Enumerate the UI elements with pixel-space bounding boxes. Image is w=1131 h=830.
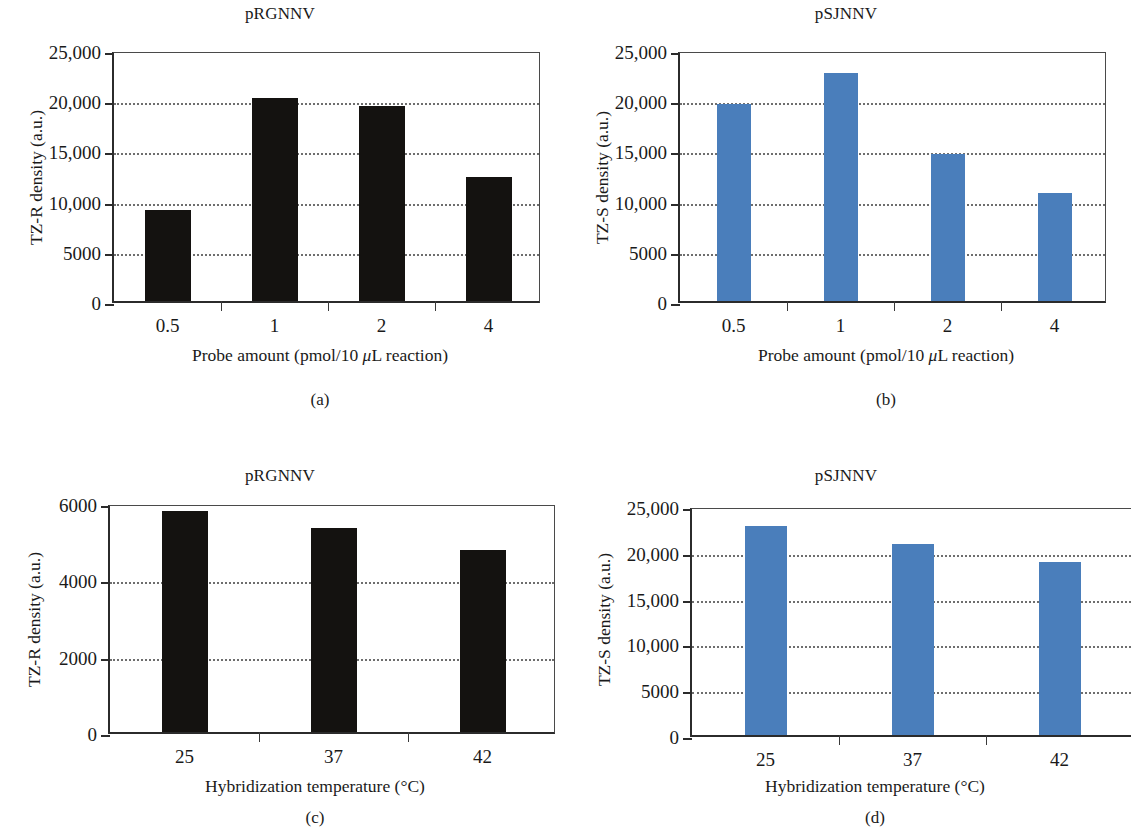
y-tick-a-4 (105, 103, 114, 105)
y-tick-label-c-1: 2000 (59, 648, 97, 670)
y-axis-label-b: TZ-S density (a.u.) (592, 48, 613, 308)
y-tick-label-a-1: 5000 (63, 243, 101, 265)
bar-a-2 (359, 106, 405, 301)
x-tick-label-a-0: 0.5 (156, 315, 180, 337)
y-tick-label-d-4: 20,000 (627, 544, 679, 566)
chart-panel-b: pSJNNV (566, 4, 1126, 14)
y-tick-a-0 (105, 304, 114, 306)
y-tick-label-b-5: 25,000 (615, 42, 667, 64)
y-tick-label-c-3: 6000 (59, 495, 97, 517)
y-tick-label-d-3: 15,000 (627, 590, 679, 612)
y-tick-label-b-1: 5000 (629, 243, 667, 265)
panel-title-b: pSJNNV (566, 4, 1126, 24)
y-tick-b-1 (671, 254, 680, 256)
bar-d-0 (745, 526, 787, 735)
y-tick-b-2 (671, 204, 680, 206)
panel-title-c: pRGNNV (0, 466, 560, 486)
y-tick-label-b-3: 15,000 (615, 142, 667, 164)
plot-area-c: 0200040006000253742 (108, 505, 555, 734)
y-tick-label-d-1: 5000 (641, 681, 679, 703)
x-tick-label-a-2: 2 (377, 315, 387, 337)
chart-panel-c: pRGNNV (0, 466, 560, 476)
x-tick-label-b-0: 0.5 (722, 315, 746, 337)
x-tick-label-d-0: 25 (756, 749, 775, 771)
y-tick-c-0 (101, 735, 110, 737)
bar-c-0 (162, 511, 208, 732)
x-tick-d-1 (839, 735, 840, 745)
x-axis-label-b: Probe amount (pmol/10 μL reaction) (626, 345, 1131, 366)
subfigure-caption-a: (a) (60, 390, 580, 410)
x-tick-label-c-1: 37 (324, 746, 343, 768)
y-tick-a-5 (105, 53, 114, 55)
x-tick-label-c-2: 42 (473, 746, 492, 768)
y-axis-label-d: TZ-S density (a.u.) (594, 490, 615, 750)
panel-title-a: pRGNNV (0, 4, 560, 24)
y-tick-c-3 (101, 506, 110, 508)
x-tick-a-3 (435, 301, 436, 311)
bar-c-2 (460, 550, 506, 732)
bar-d-2 (1039, 562, 1081, 735)
plot-area-b: 0500010,00015,00020,00025,0000.5124 (678, 52, 1106, 303)
x-tick-d-2 (986, 735, 987, 745)
gridline-a-4 (114, 103, 539, 105)
y-tick-b-5 (671, 53, 680, 55)
y-tick-b-3 (671, 153, 680, 155)
bar-b-2 (931, 154, 965, 301)
y-tick-d-0 (683, 738, 692, 740)
y-tick-label-a-3: 15,000 (49, 142, 101, 164)
y-tick-label-b-2: 10,000 (615, 193, 667, 215)
x-tick-a-2 (328, 301, 329, 311)
gridline-a-3 (114, 153, 539, 155)
bar-b-3 (1038, 193, 1072, 301)
y-tick-label-d-0: 0 (670, 727, 680, 749)
y-tick-label-d-2: 10,000 (627, 635, 679, 657)
y-tick-c-2 (101, 582, 110, 584)
bar-a-0 (145, 210, 191, 301)
y-tick-d-5 (683, 509, 692, 511)
bar-b-0 (717, 104, 751, 301)
x-axis-label-c: Hybridization temperature (°C) (55, 776, 575, 797)
x-tick-label-b-2: 2 (943, 315, 953, 337)
subfigure-caption-d: (d) (640, 808, 1110, 828)
y-tick-label-d-5: 25,000 (627, 498, 679, 520)
y-tick-label-a-5: 25,000 (49, 42, 101, 64)
y-tick-d-4 (683, 555, 692, 557)
y-tick-label-b-4: 20,000 (615, 92, 667, 114)
y-tick-a-2 (105, 204, 114, 206)
x-tick-label-a-1: 1 (270, 315, 280, 337)
bar-a-3 (466, 177, 512, 301)
bar-a-1 (252, 98, 298, 301)
x-tick-label-a-3: 4 (484, 315, 494, 337)
chart-panel-d: pSJNNV (566, 466, 1126, 476)
bar-b-1 (824, 73, 858, 301)
y-tick-d-1 (683, 692, 692, 694)
y-tick-label-a-4: 20,000 (49, 92, 101, 114)
chart-panel-a: pRGNNV (0, 4, 560, 14)
bar-c-1 (311, 528, 357, 732)
y-tick-c-1 (101, 659, 110, 661)
plot-area-a: 0500010,00015,00020,00025,0000.5124 (112, 52, 540, 303)
y-tick-d-3 (683, 601, 692, 603)
subfigure-caption-c: (c) (55, 808, 575, 828)
x-axis-label-a: Probe amount (pmol/10 μL reaction) (60, 345, 580, 366)
y-tick-a-1 (105, 254, 114, 256)
x-tick-b-2 (894, 301, 895, 311)
y-tick-label-b-0: 0 (658, 293, 668, 315)
y-axis-label-a: TZ-R density (a.u.) (26, 48, 47, 308)
y-tick-label-a-2: 10,000 (49, 193, 101, 215)
plot-area-d: 0500010,00015,00020,00025,000253742 (690, 508, 1131, 737)
y-axis-label-c: TZ-R density (a.u.) (24, 490, 45, 750)
x-tick-c-1 (259, 732, 260, 742)
y-tick-label-a-0: 0 (92, 293, 102, 315)
y-tick-b-0 (671, 304, 680, 306)
x-tick-label-b-1: 1 (836, 315, 846, 337)
x-tick-label-d-1: 37 (903, 749, 922, 771)
y-tick-d-2 (683, 646, 692, 648)
x-tick-a-1 (221, 301, 222, 311)
bar-d-1 (892, 544, 934, 735)
y-tick-label-c-2: 4000 (59, 571, 97, 593)
subfigure-caption-b: (b) (626, 390, 1131, 410)
y-tick-a-3 (105, 153, 114, 155)
y-tick-b-4 (671, 103, 680, 105)
x-tick-b-1 (787, 301, 788, 311)
